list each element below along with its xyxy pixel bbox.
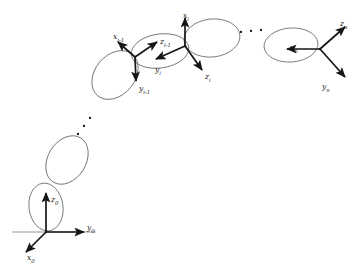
ellipsis-dots-upper-chain-dot-3 [260,29,262,31]
axis-arrow-x0 [26,232,46,252]
axis-label-z0: z0 [51,196,58,206]
ellipsis-dots-lower-chain-dot-3 [89,117,91,119]
axis-arrow-zim1 [135,42,157,57]
axis-arrow-yn [320,49,345,77]
frame-origin-base [45,231,47,233]
ellipsis-dots-upper-chain-dot-2 [250,30,252,32]
link-ellipse-i-minus-1 [82,41,147,108]
axis-label-xi: xi [183,12,189,22]
axis-arrow-xim1 [118,42,135,57]
axis-label-xim1: xi-1 [113,33,124,43]
axis-label-yim1: yi-1 [139,85,150,95]
axis-label-zi: zi [205,73,211,83]
ellipsis-dots-upper-chain-dot-1 [240,31,242,33]
ellipsis-dots-lower-chain-dot-1 [77,133,79,135]
axis-label-zn: zn [340,20,347,30]
axis-label-x0: x0 [27,254,35,264]
axis-label-xn: xn [290,44,298,54]
frame-origin-i [184,45,186,47]
frame-origin-i_minus_1 [134,56,136,58]
axis-label-y0: y0 [87,224,95,234]
link-ellipse-lower [37,128,97,192]
axis-arrow-zn [320,27,345,49]
axis-label-yi: yi [155,66,161,76]
axis-arrow-yim1 [135,57,136,81]
ellipsis-dots-lower-chain-dot-2 [83,125,85,127]
axis-label-yn: yn [322,83,330,93]
robot-kinematic-chain-figure: z0y0x0xi-1zi-1yi-1xiyizixnznyn [0,0,361,267]
axis-arrow-zi [185,46,202,70]
links-layer [26,16,319,233]
frame-origin-n [319,48,321,50]
axis-arrow-yi [156,46,185,59]
axis-label-zim1: zi-1 [160,38,171,48]
diagram-canvas [0,0,361,267]
